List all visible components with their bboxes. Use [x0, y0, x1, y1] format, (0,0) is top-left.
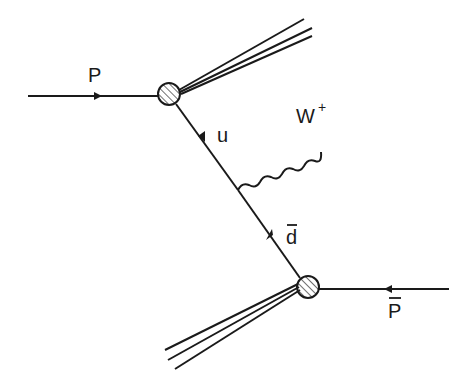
upper-spectator-jet [179, 19, 312, 94]
proton-label: P [88, 64, 101, 86]
antiproton-label: P [388, 300, 401, 322]
w-boson-label: W [296, 105, 315, 127]
top-hadron-blob [158, 83, 180, 105]
arrow-left-icon [384, 285, 392, 293]
antiproton-line [319, 285, 449, 293]
feynman-diagram: P u W + d P [0, 0, 476, 389]
dbar-quark-label: d [286, 226, 297, 248]
proton-line [28, 92, 158, 100]
w-boson-charge: + [318, 99, 326, 115]
lower-spectator-jet [165, 284, 300, 369]
arrow-right-icon [94, 92, 102, 100]
u-quark-label: u [217, 124, 228, 146]
w-boson-line [238, 152, 321, 190]
u-quark-line [176, 104, 238, 190]
bottom-hadron-blob [297, 276, 319, 298]
